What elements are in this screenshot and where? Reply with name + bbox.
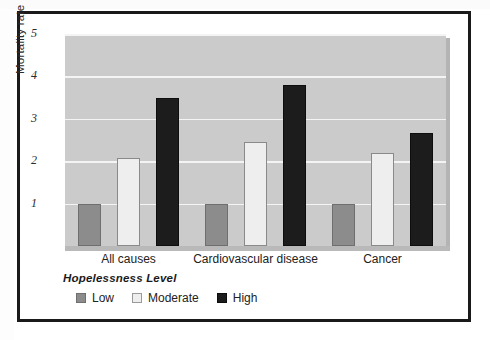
y-tick-label: 5	[15, 26, 37, 41]
bar-shadow	[267, 148, 273, 246]
legend-item-moderate[interactable]: Moderate	[132, 291, 199, 305]
category-label-2: Cancer	[293, 252, 473, 266]
bar-shadow	[433, 139, 439, 246]
y-tick-label: 4	[15, 68, 37, 83]
legend-label-low: Low	[92, 291, 114, 305]
legend-swatch-low-icon	[76, 293, 86, 303]
scan-edge-top	[0, 0, 490, 9]
bar-high-2	[410, 133, 433, 246]
bar-body	[205, 204, 228, 246]
legend-item-high[interactable]: High	[217, 291, 258, 305]
bar-body	[78, 204, 101, 246]
y-tick-label: 1	[15, 196, 37, 211]
bar-moderate-2	[371, 153, 394, 246]
y-tick-label: 2	[15, 153, 37, 168]
legend-swatch-moderate-icon	[132, 293, 142, 303]
gridline	[65, 119, 446, 121]
plot-area	[65, 34, 446, 246]
legend-items: LowModerateHigh	[63, 291, 257, 305]
legend-title: Hopelessness Level	[63, 272, 257, 284]
bar-high-0	[156, 98, 179, 246]
bar-shadow	[355, 210, 361, 246]
bar-body	[371, 153, 394, 246]
legend-label-high: High	[233, 291, 258, 305]
gridline	[65, 34, 446, 36]
bar-body	[283, 85, 306, 246]
bar-shadow	[179, 104, 185, 246]
y-tick-label: 3	[15, 111, 37, 126]
bar-body	[410, 133, 433, 246]
category-axis-strip	[65, 246, 450, 251]
bar-body	[244, 142, 267, 246]
legend-swatch-high-icon	[217, 293, 227, 303]
chart-legend: Hopelessness Level LowModerateHigh	[63, 272, 257, 305]
bar-shadow	[228, 210, 234, 246]
legend-label-moderate: Moderate	[148, 291, 199, 305]
figure-frame: Mortality rate 54321 All causesCardiovas…	[17, 11, 471, 322]
bar-low-1	[205, 204, 228, 246]
gridline	[65, 76, 446, 78]
bar-shadow	[101, 210, 107, 246]
page-background: Mortality rate 54321 All causesCardiovas…	[0, 0, 490, 340]
bar-body	[117, 158, 140, 246]
bar-body	[156, 98, 179, 246]
scan-edge-left	[0, 0, 14, 340]
bar-shadow	[306, 91, 312, 246]
bar-low-0	[78, 204, 101, 246]
bar-moderate-1	[244, 142, 267, 246]
chart-canvas: Mortality rate 54321 All causesCardiovas…	[20, 14, 468, 319]
bar-shadow	[394, 159, 400, 246]
bar-high-1	[283, 85, 306, 246]
bar-body	[332, 204, 355, 246]
legend-item-low[interactable]: Low	[76, 291, 114, 305]
bar-low-2	[332, 204, 355, 246]
bar-moderate-0	[117, 158, 140, 246]
